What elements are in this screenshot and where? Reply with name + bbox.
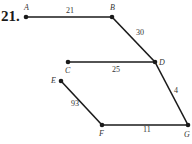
edge-weight-EF: 93 [71, 99, 79, 108]
edge-BD [112, 17, 155, 62]
vertex-label-D: D [158, 58, 165, 67]
vertex-E [59, 79, 64, 84]
vertex-label-F: F [98, 129, 104, 138]
edge-weight-FG: 11 [143, 125, 151, 134]
edge-EF [61, 81, 102, 125]
edges-group: 21302593411 [26, 6, 188, 134]
vertex-label-B: B [110, 3, 115, 12]
edge-weight-DG: 4 [174, 86, 178, 95]
vertex-label-C: C [65, 66, 71, 75]
graph-diagram: 21. 21302593411 ABCDEFG [0, 0, 192, 144]
problem-number: 21. [1, 8, 20, 24]
vertex-label-G: G [184, 130, 190, 139]
edge-DG [155, 62, 188, 125]
vertex-label-A: A [23, 3, 29, 12]
vertex-A [24, 15, 29, 20]
edge-weight-BD: 30 [136, 28, 144, 37]
vertex-G [186, 123, 191, 128]
edge-weight-AB: 21 [66, 6, 74, 15]
vertex-label-E: E [50, 76, 56, 85]
edge-weight-CD: 25 [112, 65, 120, 74]
vertex-C [66, 60, 71, 65]
vertex-F [100, 123, 105, 128]
vertices-group: ABCDEFG [23, 3, 190, 139]
vertex-D [153, 60, 158, 65]
vertex-B [110, 15, 115, 20]
